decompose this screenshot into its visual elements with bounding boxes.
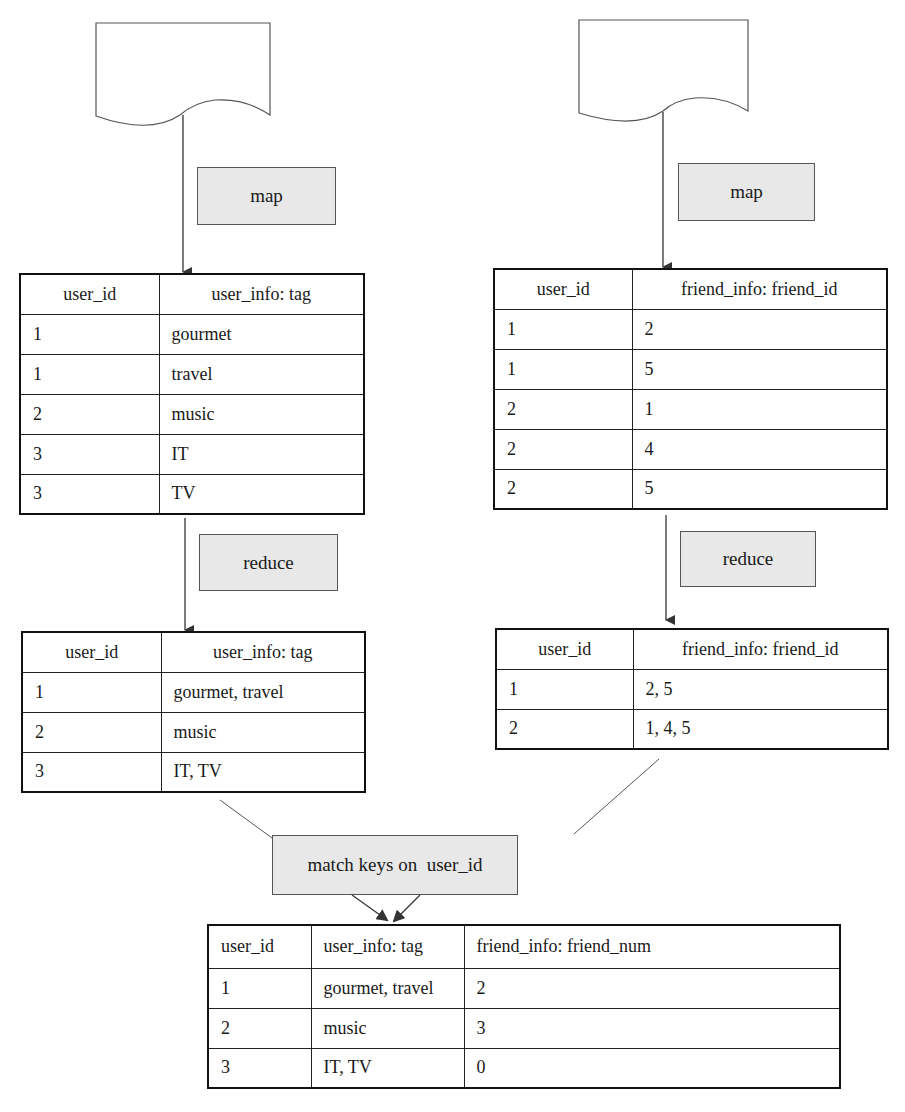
reduce-step-left: reduce xyxy=(199,534,338,591)
cell: 2 xyxy=(208,1008,311,1048)
cell: music xyxy=(159,394,364,434)
table-row: 21, 4, 5 xyxy=(496,709,888,749)
cell: 2 xyxy=(632,309,887,349)
result-table: user_id user_info: tag friend_info: frie… xyxy=(207,924,841,1089)
cell: travel xyxy=(159,354,364,394)
map-label: map xyxy=(250,185,283,207)
cell: 2 xyxy=(464,968,840,1008)
cell: 3 xyxy=(20,474,159,514)
cell: music xyxy=(161,712,365,752)
cell: 2 xyxy=(22,712,161,752)
cell: gourmet, travel xyxy=(311,968,464,1008)
table-row: 2music xyxy=(22,712,365,752)
user-map-table: user_id user_info: tag 1gourmet 1travel … xyxy=(19,273,365,515)
cell: 1 xyxy=(20,314,159,354)
header-cell: user_id xyxy=(20,274,159,314)
table-row: 1gourmet, travel2 xyxy=(208,968,840,1008)
cell: 1 xyxy=(494,349,632,389)
cell: 3 xyxy=(208,1048,311,1088)
header-cell: friend_info: friend_num xyxy=(464,925,840,968)
header-cell: user_id xyxy=(22,632,161,672)
table-row: 3TV xyxy=(20,474,364,514)
header-cell: friend_info: friend_id xyxy=(633,629,888,669)
table-row: 1travel xyxy=(20,354,364,394)
header-cell: user_info: tag xyxy=(311,925,464,968)
cell: 5 xyxy=(632,349,887,389)
table-header-row: user_id friend_info: friend_id xyxy=(496,629,888,669)
cell: 0 xyxy=(464,1048,840,1088)
header-cell: user_id xyxy=(496,629,633,669)
cell: gourmet, travel xyxy=(161,672,365,712)
table-row: 3IT, TV xyxy=(22,752,365,792)
match-label: match keys on user_id xyxy=(307,854,482,876)
user-reduce-table: user_id user_info: tag 1gourmet, travel … xyxy=(21,631,366,793)
friend-map-table: user_id friend_info: friend_id 12 15 21 … xyxy=(493,268,888,510)
cell: music xyxy=(311,1008,464,1048)
reduce-label: reduce xyxy=(243,552,294,574)
map-step-left: map xyxy=(197,167,336,225)
cell: TV xyxy=(159,474,364,514)
table-row: 2music xyxy=(20,394,364,434)
header-cell: user_info: tag xyxy=(161,632,365,672)
cell: 1 xyxy=(496,669,633,709)
match-keys-step: match keys on user_id xyxy=(272,835,518,895)
cell: 1 xyxy=(494,309,632,349)
cell: 1 xyxy=(632,389,887,429)
table-row: 25 xyxy=(494,469,887,509)
header-cell: friend_info: friend_id xyxy=(632,269,887,309)
cell: 1, 4, 5 xyxy=(633,709,888,749)
cell: gourmet xyxy=(159,314,364,354)
cell: 2, 5 xyxy=(633,669,888,709)
cell: IT, TV xyxy=(161,752,365,792)
table-row: 3IT, TV0 xyxy=(208,1048,840,1088)
cell: 5 xyxy=(632,469,887,509)
cell: IT xyxy=(159,434,364,474)
document-icon-right xyxy=(579,20,748,121)
table-row: 24 xyxy=(494,429,887,469)
table-row: 3IT xyxy=(20,434,364,474)
cell: 2 xyxy=(496,709,633,749)
table-row: 2music3 xyxy=(208,1008,840,1048)
header-cell: user_id xyxy=(208,925,311,968)
cell: 1 xyxy=(22,672,161,712)
table-row: 12, 5 xyxy=(496,669,888,709)
cell: 1 xyxy=(20,354,159,394)
table-header-row: user_id user_info: tag friend_info: frie… xyxy=(208,925,840,968)
table-row: 12 xyxy=(494,309,887,349)
cell: 3 xyxy=(20,434,159,474)
table-row: 1gourmet, travel xyxy=(22,672,365,712)
cell: 1 xyxy=(208,968,311,1008)
header-cell: user_info: tag xyxy=(159,274,364,314)
table-row: 1gourmet xyxy=(20,314,364,354)
cell: IT, TV xyxy=(311,1048,464,1088)
friend-reduce-table: user_id friend_info: friend_id 12, 5 21,… xyxy=(495,628,889,750)
reduce-label: reduce xyxy=(723,548,774,570)
map-label: map xyxy=(730,181,763,203)
table-header-row: user_id friend_info: friend_id xyxy=(494,269,887,309)
cell: 4 xyxy=(632,429,887,469)
cell: 2 xyxy=(20,394,159,434)
cell: 2 xyxy=(494,389,632,429)
map-step-right: map xyxy=(678,163,815,221)
cell: 3 xyxy=(22,752,161,792)
reduce-step-right: reduce xyxy=(680,531,816,587)
document-icon-left xyxy=(96,23,270,125)
table-row: 21 xyxy=(494,389,887,429)
cell: 2 xyxy=(494,429,632,469)
table-row: 15 xyxy=(494,349,887,389)
header-cell: user_id xyxy=(494,269,632,309)
cell: 3 xyxy=(464,1008,840,1048)
table-header-row: user_id user_info: tag xyxy=(22,632,365,672)
cell: 2 xyxy=(494,469,632,509)
table-header-row: user_id user_info: tag xyxy=(20,274,364,314)
